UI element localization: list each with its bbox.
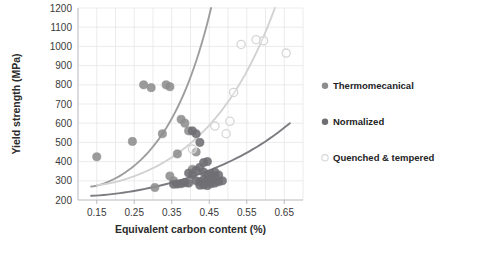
x-tick-label: 0.65 xyxy=(275,207,295,218)
data-point xyxy=(282,49,290,57)
data-point xyxy=(188,145,196,153)
data-point xyxy=(215,171,223,179)
data-point xyxy=(260,37,268,45)
y-tick-label: 200 xyxy=(55,195,72,206)
data-point xyxy=(192,130,200,138)
chart-container: 2003004005006007008009001000110012000.15… xyxy=(0,0,480,253)
data-point xyxy=(151,183,159,191)
x-tick-label: 0.25 xyxy=(125,207,145,218)
y-axis-title: Yield strength (MPa) xyxy=(10,53,22,154)
legend-label-3: Quenched & tempered xyxy=(333,152,435,163)
data-point xyxy=(181,119,189,127)
data-point xyxy=(226,117,234,125)
y-tick-label: 1000 xyxy=(50,41,73,52)
x-tick-label: 0.35 xyxy=(162,207,182,218)
data-point xyxy=(158,130,166,138)
data-point xyxy=(222,130,230,138)
legend-marker-1 xyxy=(322,83,328,89)
y-tick-label: 800 xyxy=(55,79,72,90)
data-point xyxy=(128,137,136,145)
data-point xyxy=(185,179,193,187)
legend-marker-3 xyxy=(322,155,328,161)
y-tick-label: 300 xyxy=(55,175,72,186)
y-tick-label: 500 xyxy=(55,137,72,148)
data-point xyxy=(230,88,238,96)
x-tick-label: 0.55 xyxy=(237,207,257,218)
y-tick-label: 1100 xyxy=(50,22,72,33)
x-tick-label: 0.45 xyxy=(200,207,220,218)
scatter-chart: 2003004005006007008009001000110012000.15… xyxy=(0,0,480,253)
data-point xyxy=(203,158,211,166)
y-tick-label: 600 xyxy=(55,118,72,129)
legend-label-2: Normalized xyxy=(333,116,384,127)
y-tick-label: 1200 xyxy=(50,3,73,14)
y-tick-label: 900 xyxy=(55,60,72,71)
data-point xyxy=(237,40,245,48)
data-point xyxy=(211,122,219,130)
data-point xyxy=(147,84,155,92)
x-axis-title: Equivalent carbon content (%) xyxy=(115,223,266,235)
data-point xyxy=(166,83,174,91)
data-point xyxy=(196,181,204,189)
data-point xyxy=(196,138,204,146)
data-point xyxy=(170,180,178,188)
x-tick-label: 0.15 xyxy=(87,207,107,218)
legend-label-1: Thermomecanical xyxy=(333,80,414,91)
data-point xyxy=(93,153,101,161)
data-point xyxy=(173,150,181,158)
y-tick-label: 700 xyxy=(55,99,72,110)
data-point xyxy=(140,81,148,89)
legend-marker-2 xyxy=(322,119,328,125)
y-tick-label: 400 xyxy=(55,156,72,167)
